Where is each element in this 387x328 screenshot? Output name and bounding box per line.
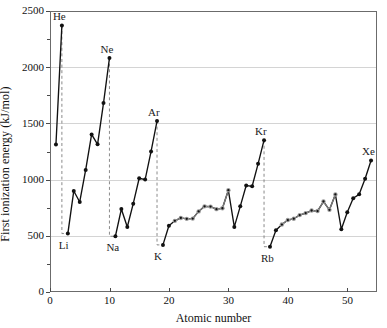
annotation-li: Li: [59, 240, 69, 251]
data-point-z12: [119, 207, 123, 211]
data-point-core-z23: [186, 218, 188, 220]
data-point-z36: [262, 138, 266, 142]
data-point-z38: [274, 228, 278, 232]
data-point-z33: [244, 184, 248, 188]
data-point-core-z47: [328, 209, 330, 211]
data-point-z9: [102, 101, 106, 105]
data-point-z52: [357, 192, 361, 196]
series-segment-3: [163, 140, 264, 245]
data-point-core-z22: [180, 217, 182, 219]
data-point-z10: [107, 56, 111, 60]
data-point-core-z42: [299, 214, 301, 216]
data-point-z19: [161, 243, 165, 247]
data-point-core-z48: [334, 193, 336, 195]
data-point-core-z39: [281, 223, 283, 225]
series-segment-4: [270, 160, 371, 246]
data-point-z53: [363, 177, 367, 181]
data-point-core-z27: [209, 205, 211, 207]
data-point-z32: [238, 204, 242, 208]
dropline-3: [264, 140, 270, 247]
data-point-z1: [54, 143, 58, 147]
annotation-xe: Xe: [362, 146, 375, 157]
data-point-z37: [268, 245, 272, 249]
data-point-core-z26: [203, 205, 205, 207]
data-point-z18: [155, 119, 159, 123]
ionization-energy-chart: First ionization energy (kJ/mol) 2500 20…: [0, 0, 387, 328]
series-marker-group: [54, 23, 373, 248]
data-point-z13: [125, 225, 129, 229]
data-point-core-z28: [215, 208, 217, 210]
data-point-z51: [351, 196, 355, 200]
data-point-z14: [131, 202, 135, 206]
data-point-z17: [149, 149, 153, 153]
data-point-core-z43: [305, 212, 307, 214]
annotation-rb: Rb: [261, 253, 274, 264]
annotation-kr: Kr: [255, 126, 267, 137]
data-point-core-z29: [221, 207, 223, 209]
data-point-z5: [78, 200, 82, 204]
data-point-core-z25: [197, 210, 199, 212]
series-segment-1: [68, 58, 110, 233]
data-point-z6: [84, 168, 88, 172]
data-layer: [0, 0, 387, 328]
data-point-core-z30: [227, 189, 229, 191]
data-point-z15: [137, 176, 141, 180]
data-point-z35: [256, 162, 260, 166]
data-point-core-z44: [310, 209, 312, 211]
data-point-z20: [167, 224, 171, 228]
data-point-core-z41: [293, 218, 295, 220]
data-point-z11: [113, 234, 117, 238]
series-line-group: [56, 25, 371, 246]
data-point-z8: [96, 142, 100, 146]
annotation-ne: Ne: [100, 44, 113, 55]
annotation-na: Na: [106, 242, 119, 253]
data-point-z54: [369, 158, 373, 162]
transition-metal-segment-0: [175, 190, 229, 221]
data-point-z7: [90, 132, 94, 136]
data-point-core-z45: [316, 210, 318, 212]
dropline-0: [62, 25, 68, 233]
annotation-ar: Ar: [148, 107, 160, 118]
data-point-z50: [345, 210, 349, 214]
data-point-core-z21: [174, 220, 176, 222]
data-point-z34: [250, 184, 254, 188]
data-point-z2: [60, 23, 64, 27]
series-segment-0: [56, 25, 62, 144]
data-point-z49: [339, 227, 343, 231]
data-point-z16: [143, 178, 147, 182]
data-point-z3: [66, 232, 70, 236]
dropline-1: [109, 58, 115, 236]
dropline-2: [157, 121, 163, 245]
annotation-he: He: [53, 11, 66, 22]
series-segment-2: [115, 121, 157, 236]
annotation-k: K: [154, 251, 162, 262]
data-point-core-z24: [192, 217, 194, 219]
data-point-z31: [232, 225, 236, 229]
data-point-z4: [72, 189, 76, 193]
data-point-core-z40: [287, 219, 289, 221]
data-point-core-z46: [322, 200, 324, 202]
